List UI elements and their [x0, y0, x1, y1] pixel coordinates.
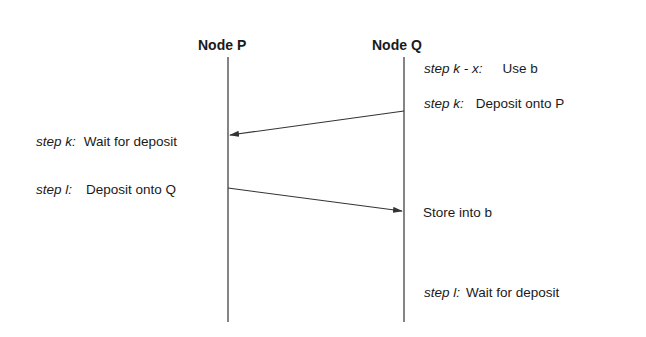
step-label: step l:	[36, 182, 72, 197]
action-label: Wait for deposit	[466, 285, 559, 300]
step-label: step k:	[36, 134, 76, 149]
event-q-wait-for-deposit: step l:Wait for deposit	[424, 285, 559, 301]
message-arrow-q-to-p	[230, 111, 404, 135]
action-label: Use b	[503, 61, 538, 76]
message-arrow-p-to-q	[228, 188, 402, 211]
node-q-title: Node Q	[372, 37, 422, 53]
action-label: Wait for deposit	[84, 134, 177, 149]
event-q-deposit-onto-p: step k:Deposit onto P	[424, 96, 564, 112]
step-label: step k:	[424, 96, 464, 111]
action-label: Deposit onto P	[476, 96, 565, 111]
step-label: step l:	[424, 285, 460, 300]
step-label: step k - x:	[424, 61, 483, 76]
node-p-title: Node P	[198, 37, 246, 53]
event-p-wait-for-deposit: step k:Wait for deposit	[36, 134, 177, 150]
event-q-use-b: step k - x:Use b	[424, 61, 538, 77]
event-q-store-into-b: Store into b	[423, 205, 492, 221]
action-label: Deposit onto Q	[86, 182, 176, 197]
action-label: Store into b	[423, 205, 492, 220]
event-p-deposit-onto-q: step l:Deposit onto Q	[36, 182, 176, 198]
